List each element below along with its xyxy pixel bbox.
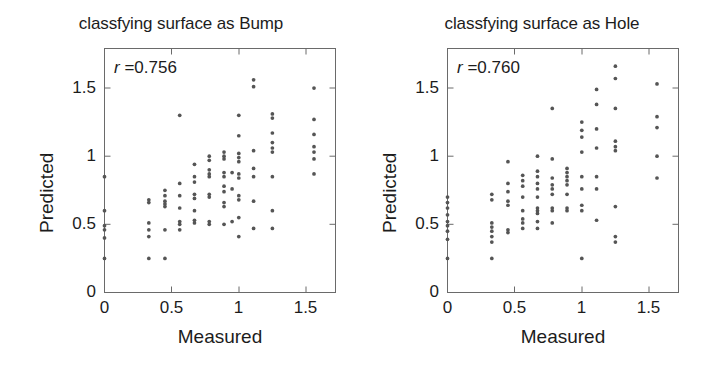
data-point	[565, 179, 569, 183]
data-point	[178, 182, 182, 186]
data-point	[237, 216, 241, 220]
data-point	[271, 227, 275, 231]
data-point	[271, 209, 275, 213]
data-point	[207, 175, 211, 179]
data-point	[614, 64, 618, 68]
panel-bump: classfying surface as Bump	[0, 0, 362, 376]
data-point	[230, 187, 234, 191]
data-point	[222, 175, 226, 179]
data-point	[237, 176, 241, 180]
data-point	[207, 168, 211, 172]
data-point	[207, 158, 211, 162]
data-point	[580, 175, 584, 179]
data-point	[252, 199, 256, 203]
data-point	[446, 220, 450, 224]
data-point	[536, 182, 540, 186]
data-point	[222, 222, 226, 226]
data-point	[580, 150, 584, 154]
data-point	[271, 116, 275, 120]
data-point	[595, 103, 599, 107]
data-point	[103, 257, 107, 261]
plot-frame-bump	[105, 49, 336, 293]
data-point	[536, 220, 540, 224]
data-point	[163, 228, 167, 232]
data-point	[312, 133, 316, 137]
data-point	[237, 156, 241, 160]
data-point	[446, 206, 450, 210]
data-point	[222, 184, 226, 188]
data-point	[595, 146, 599, 150]
data-point	[103, 175, 107, 179]
data-point	[237, 172, 241, 176]
data-point	[490, 240, 494, 244]
data-point	[490, 198, 494, 202]
y-axis-ticks-bump	[105, 88, 336, 293]
data-point	[193, 192, 197, 196]
xtick-label-0: 0	[427, 298, 468, 318]
y-axis-label-bump: Predicted	[36, 153, 58, 233]
data-point	[446, 229, 450, 233]
xtick-label-1.5: 1.5	[628, 298, 669, 318]
data-point	[490, 257, 494, 261]
data-point	[565, 192, 569, 196]
panel-hole: classfying surface as Hole	[361, 0, 723, 376]
data-point	[536, 175, 540, 179]
x-axis-label-hole: Measured	[447, 326, 679, 348]
data-point	[506, 203, 510, 207]
x-axis-label-bump: Measured	[104, 326, 336, 348]
data-point	[446, 213, 450, 217]
data-point	[207, 222, 211, 226]
plot-frame-hole	[448, 49, 679, 293]
data-point	[312, 172, 316, 176]
data-point	[252, 149, 256, 153]
data-point	[237, 113, 241, 117]
data-point	[655, 176, 659, 180]
data-point	[536, 169, 540, 173]
figure-container: classfying surface as Bump	[0, 0, 723, 376]
data-point	[271, 150, 275, 154]
data-point	[103, 224, 107, 228]
r-number: =0.760	[463, 58, 520, 77]
data-point	[178, 222, 182, 226]
data-point	[565, 167, 569, 171]
data-point	[595, 88, 599, 92]
r-value-annotation-hole: r =0.760	[457, 58, 520, 78]
data-point	[580, 203, 584, 207]
data-point	[521, 227, 525, 231]
data-point	[536, 154, 540, 158]
r-number: =0.756	[120, 58, 177, 77]
data-point	[614, 139, 618, 143]
data-point	[147, 235, 151, 239]
data-point	[565, 183, 569, 187]
data-point	[237, 235, 241, 239]
data-point	[193, 221, 197, 225]
x-axis-ticks-hole	[448, 49, 650, 293]
data-point	[521, 195, 525, 199]
xtick-label-1: 1	[561, 298, 602, 318]
data-point	[252, 85, 256, 89]
data-point	[147, 201, 151, 205]
xtick-label-0.5: 0.5	[151, 298, 192, 318]
data-point	[580, 120, 584, 124]
data-points-hole	[446, 64, 659, 260]
x-axis-ticks-bump	[105, 49, 307, 293]
data-point	[580, 209, 584, 213]
data-point	[178, 113, 182, 117]
data-point	[614, 107, 618, 111]
data-point	[655, 115, 659, 119]
data-point	[230, 220, 234, 224]
data-point	[655, 82, 659, 86]
data-point	[580, 128, 584, 132]
data-point	[147, 228, 151, 232]
data-point	[103, 236, 107, 240]
axes-frame	[105, 49, 336, 293]
data-point	[252, 78, 256, 82]
data-point	[490, 225, 494, 229]
data-point	[193, 197, 197, 201]
data-point	[506, 190, 510, 194]
data-point	[446, 224, 450, 228]
data-point	[536, 195, 540, 199]
data-point	[237, 160, 241, 164]
data-point	[147, 221, 151, 225]
data-point	[565, 171, 569, 175]
